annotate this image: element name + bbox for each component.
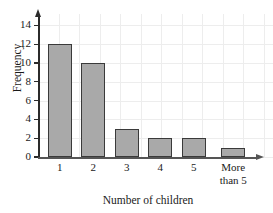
gridline-horizontal (38, 119, 273, 120)
gridline-vertical (182, 14, 183, 158)
x-axis-title: Number of children (38, 194, 258, 206)
bar (148, 138, 172, 157)
gridline-vertical (161, 14, 162, 158)
bar (48, 44, 72, 157)
cropped-title-remnant (128, 0, 144, 3)
gridline-vertical (264, 14, 265, 158)
y-axis-tick-mark (34, 138, 38, 139)
x-axis-line (38, 157, 258, 159)
gridline-horizontal (38, 44, 273, 45)
gridline-horizontal (38, 25, 273, 26)
gridline-vertical (202, 14, 203, 158)
y-axis-tick-label: 0 (7, 151, 31, 162)
gridline-vertical (79, 14, 80, 158)
gridline-horizontal (38, 82, 273, 83)
y-axis-tick-mark (34, 100, 38, 101)
gridline-horizontal (38, 101, 273, 102)
bar (182, 138, 206, 157)
y-axis-tick-label: 2 (7, 132, 31, 143)
y-axis-tick-mark (34, 156, 38, 157)
y-axis-tick-mark (34, 119, 38, 120)
y-axis-title: Frequency (11, 18, 23, 118)
y-axis-tick-mark (34, 25, 38, 26)
gridline-vertical (223, 14, 224, 158)
chart-gridlines (38, 14, 273, 158)
y-axis-arrow-icon (35, 9, 41, 17)
y-axis-line (38, 16, 40, 158)
y-axis-tick-mark (34, 62, 38, 63)
frequency-bar-chart: 02468101214 12345More than 5 Frequency N… (0, 0, 273, 213)
gridline-vertical (243, 14, 244, 158)
bar (115, 129, 139, 157)
x-axis-arrow-icon (256, 154, 264, 160)
gridline-horizontal (38, 63, 273, 64)
y-axis-tick-mark (34, 81, 38, 82)
bar (221, 148, 245, 157)
bar (81, 63, 105, 157)
x-axis-tick-label: More than 5 (210, 161, 256, 186)
gridline-vertical (141, 14, 142, 158)
y-axis-tick-mark (34, 44, 38, 45)
